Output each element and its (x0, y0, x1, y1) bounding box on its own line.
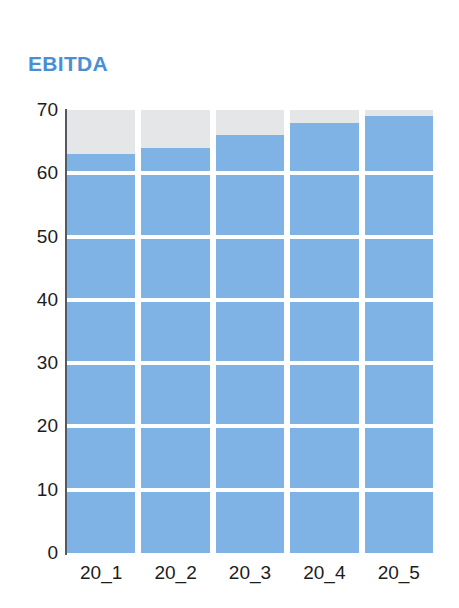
y-tick-label: 30 (4, 353, 58, 372)
bar-gap (284, 110, 290, 553)
bar-value[interactable] (216, 135, 284, 553)
ebitda-bar-chart: EBITDA 010203040506070 20_120_220_320_42… (0, 0, 459, 608)
bar-value[interactable] (290, 123, 358, 553)
x-axis-tick-labels: 20_120_220_320_420_5 (67, 562, 439, 592)
x-tick-label: 20_5 (365, 562, 433, 584)
y-tick-label: 20 (4, 416, 58, 435)
y-tick-label: 40 (4, 290, 58, 309)
y-axis-tick-labels: 010203040506070 (0, 0, 58, 608)
bar-gap (359, 110, 365, 553)
y-tick-label: 70 (4, 100, 58, 119)
x-tick-label: 20_1 (67, 562, 135, 584)
y-tick-label: 10 (4, 480, 58, 499)
plot-area (67, 110, 439, 553)
bar-value[interactable] (67, 154, 135, 553)
bar-slot[interactable] (216, 110, 284, 553)
bar-gap (210, 110, 216, 553)
x-tick-label: 20_3 (216, 562, 284, 584)
bar-slot[interactable] (67, 110, 135, 553)
bar-gap (135, 110, 141, 553)
bar-slot[interactable] (141, 110, 209, 553)
y-tick-label: 60 (4, 163, 58, 182)
bar-value[interactable] (141, 148, 209, 553)
bar-slot[interactable] (290, 110, 358, 553)
x-tick-label: 20_2 (141, 562, 209, 584)
x-tick-label: 20_4 (290, 562, 358, 584)
bar-value[interactable] (365, 116, 433, 553)
y-tick-label: 0 (4, 543, 58, 562)
bar-gap (433, 110, 439, 553)
y-tick-label: 50 (4, 227, 58, 246)
bar-slot[interactable] (365, 110, 433, 553)
